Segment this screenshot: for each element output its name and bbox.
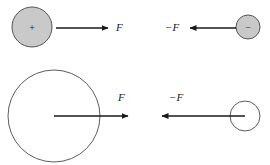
force-pair-panel-top-right: −−F <box>165 15 260 39</box>
force-pair-panel-bottom-right: −F <box>162 91 260 131</box>
panels-group: +F−−FF−F <box>8 7 260 162</box>
force-pair-diagram: +F−−FF−F <box>0 0 270 165</box>
charge-symbol-minus: − <box>245 22 251 33</box>
force-pair-panel-top-left: +F <box>12 7 123 47</box>
force-label-bottom-left: F <box>117 91 125 103</box>
force-pair-panel-bottom-left: F <box>8 70 128 162</box>
force-label-bottom-right: −F <box>169 91 183 103</box>
force-label-top-left: F <box>115 21 123 33</box>
force-label-top-right: −F <box>165 21 179 33</box>
charge-symbol-plus: + <box>29 22 35 33</box>
diagram-canvas: +F−−FF−F <box>0 0 270 165</box>
